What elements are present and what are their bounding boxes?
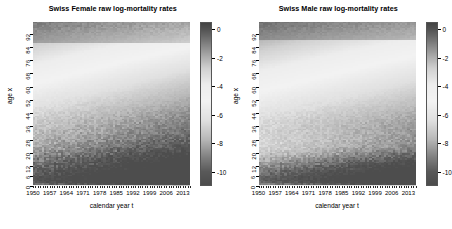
x-tick-minor xyxy=(325,186,326,188)
x-tick-minor xyxy=(266,186,267,188)
x-tick-minor xyxy=(45,186,46,188)
x-tick-minor xyxy=(71,186,72,188)
x-tick-minor xyxy=(354,186,355,188)
y-tick-label: 20 xyxy=(25,153,31,160)
y-tick-label: 0 xyxy=(25,186,31,189)
x-tick-minor xyxy=(76,186,77,188)
colorbar-tick-label: -4 xyxy=(217,83,223,90)
x-tick-minor xyxy=(344,186,345,188)
y-tick-label: 6 xyxy=(25,176,31,179)
x-tick-minor xyxy=(366,186,367,188)
x-tick-minor xyxy=(173,186,174,188)
x-tick-minor xyxy=(100,186,101,188)
y-tick-label: 20 xyxy=(251,153,257,160)
x-tick-label: 1950 xyxy=(252,190,265,196)
x-tick-minor xyxy=(83,186,84,188)
x-tick-label: 1992 xyxy=(126,190,139,196)
x-tick-minor xyxy=(62,186,63,188)
x-tick-minor xyxy=(150,186,151,188)
panel-title-male: Swiss Male raw log-mortality rates xyxy=(226,4,452,13)
x-tick-minor xyxy=(119,186,120,188)
x-tick-minor xyxy=(33,186,34,188)
y-tick-label: 68 xyxy=(25,73,31,80)
x-tick-minor xyxy=(278,186,279,188)
colorbar-tick-label: -2 xyxy=(217,54,223,61)
colorbar-tick xyxy=(438,86,441,87)
y-tick-label: 52 xyxy=(25,100,31,107)
x-tick-minor xyxy=(285,186,286,188)
x-tick-minor xyxy=(142,186,143,188)
heatmap-image-male xyxy=(259,22,416,186)
y-tick-label: 0 xyxy=(251,186,257,189)
x-tick-minor xyxy=(335,186,336,188)
x-tick-minor xyxy=(368,186,369,188)
colorbar-tick xyxy=(438,58,441,59)
colorbar-tick xyxy=(212,143,215,144)
y-tick-label: 84 xyxy=(251,47,257,54)
x-tick-minor xyxy=(406,186,407,188)
x-tick-minor xyxy=(90,186,91,188)
heatmap-image-female xyxy=(33,22,190,186)
x-tick-minor xyxy=(171,186,172,188)
x-tick-minor xyxy=(385,186,386,188)
x-tick-minor xyxy=(287,186,288,188)
x-tick-minor xyxy=(138,186,139,188)
x-tick-label: 2006 xyxy=(385,190,398,196)
x-tick-minor xyxy=(263,186,264,188)
colorbar-tick xyxy=(438,172,441,173)
x-tick-minor xyxy=(356,186,357,188)
x-tick-minor xyxy=(104,186,105,188)
x-tick-minor xyxy=(261,186,262,188)
x-tick-minor xyxy=(404,186,405,188)
x-tick-minor xyxy=(327,186,328,188)
x-tick-minor xyxy=(69,186,70,188)
x-tick-minor xyxy=(323,186,324,188)
y-axis-title-female: age x xyxy=(6,88,13,104)
x-tick-minor xyxy=(133,186,134,188)
panel-male: Swiss Male raw log-mortality rates 06122… xyxy=(226,0,452,229)
x-tick-minor xyxy=(411,186,412,188)
x-tick-minor xyxy=(275,186,276,188)
x-tick-minor xyxy=(382,186,383,188)
x-tick-minor xyxy=(408,186,409,188)
x-tick-minor xyxy=(294,186,295,188)
x-tick-minor xyxy=(399,186,400,188)
colorbar-tick xyxy=(438,143,441,144)
x-tick-minor xyxy=(180,186,181,188)
y-tick-label: 44 xyxy=(251,113,257,120)
colorbar-tick xyxy=(438,115,441,116)
x-tick-minor xyxy=(176,186,177,188)
x-tick-minor xyxy=(289,186,290,188)
x-tick-minor xyxy=(161,186,162,188)
x-tick-minor xyxy=(342,186,343,188)
colorbar-tick xyxy=(212,58,215,59)
colorbar-tick-label: -10 xyxy=(443,168,452,175)
y-tick-label: 76 xyxy=(251,60,257,67)
x-tick-minor xyxy=(270,186,271,188)
y-tick-label: 6 xyxy=(251,176,257,179)
colorbar-tick xyxy=(212,29,215,30)
y-tick-label: 28 xyxy=(251,140,257,147)
x-tick-minor xyxy=(416,186,417,188)
x-tick-minor xyxy=(128,186,129,188)
x-tick-minor xyxy=(126,186,127,188)
heatmap-plot-female xyxy=(33,22,190,186)
x-tick-label: 1971 xyxy=(302,190,315,196)
x-tick-minor xyxy=(54,186,55,188)
y-tick-label: 76 xyxy=(25,60,31,67)
x-tick-minor xyxy=(280,186,281,188)
x-tick-minor xyxy=(387,186,388,188)
x-tick-minor xyxy=(337,186,338,188)
x-tick-minor xyxy=(50,186,51,188)
colorbar-tick-label: 0 xyxy=(443,26,447,33)
x-tick-minor xyxy=(299,186,300,188)
x-tick-minor xyxy=(97,186,98,188)
y-tick-label: 44 xyxy=(25,113,31,120)
x-tick-minor xyxy=(85,186,86,188)
x-tick-minor xyxy=(52,186,53,188)
x-tick-label: 1978 xyxy=(318,190,331,196)
x-tick-minor xyxy=(188,186,189,188)
x-tick-minor xyxy=(268,186,269,188)
x-tick-minor xyxy=(121,186,122,188)
x-tick-label: 1971 xyxy=(76,190,89,196)
